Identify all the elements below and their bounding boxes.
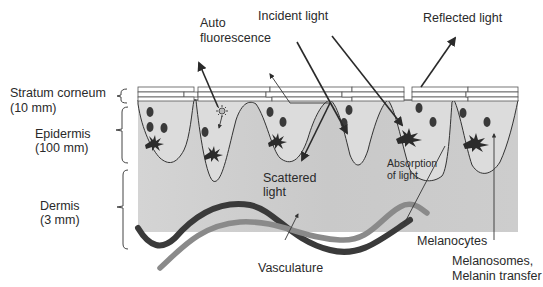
bracket-stratum-corneum <box>117 89 127 103</box>
vasculature-label: Vasculature <box>258 261 323 275</box>
epidermis-thickness: (100 mm) <box>35 141 88 155</box>
dermis-label: Dermis <box>40 199 80 213</box>
bracket-dermis <box>117 170 128 249</box>
absorption-label-1: Absorption <box>387 157 437 169</box>
stratum-corneum-thickness: (10 mm) <box>10 101 57 115</box>
scattered-light-label-1: Scattered <box>263 171 317 185</box>
skin-diagram: Auto fluorescence Incident light Reflect… <box>0 0 543 287</box>
reflected-light-label: Reflected light <box>423 11 503 25</box>
melanosomes-label-1: Melanosomes, <box>452 254 533 268</box>
stratum-corneum-label: Stratum corneum <box>10 86 106 100</box>
dermis-thickness: (3 mm) <box>40 213 80 227</box>
absorption-label-2: of light <box>387 169 418 181</box>
bracket-epidermis <box>116 107 128 163</box>
reflected-light-arrow <box>421 38 455 87</box>
auto-fluorescence-label-2: fluorescence <box>200 31 271 45</box>
auto-fluorescence-label-1: Auto <box>200 16 226 30</box>
scattered-light-label-2: light <box>263 185 286 199</box>
incident-light-label: Incident light <box>258 9 329 23</box>
melanocytes-label: Melanocytes <box>417 234 487 248</box>
layer-brackets <box>116 89 128 249</box>
epidermis-label: Epidermis <box>35 127 91 141</box>
melanosomes-label-2: Melanin transfer <box>452 269 542 283</box>
